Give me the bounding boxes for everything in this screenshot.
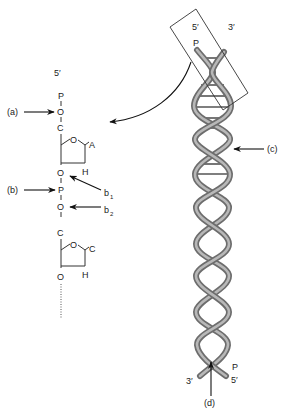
callout-d-label: (d) — [204, 398, 215, 408]
ring-oxygen-1: O — [70, 135, 77, 145]
magnification-box — [170, 9, 248, 110]
atom-o2: O — [57, 168, 64, 178]
arrow-icon — [70, 176, 101, 190]
base-a: A — [89, 140, 95, 150]
atom-p-mid: P — [58, 185, 64, 195]
double-helix — [194, 50, 231, 376]
callout-b2-label: b — [104, 205, 109, 215]
callout-b2: b 2 — [70, 205, 114, 217]
sugar-ring-1: O A H — [61, 134, 95, 177]
atom-o3: O — [57, 202, 64, 212]
callout-b2-subscript: 2 — [110, 211, 114, 217]
callout-c-label: (c) — [267, 144, 278, 154]
callout-b1-subscript: 1 — [110, 194, 114, 200]
callout-a: (a) — [7, 107, 54, 117]
atom-c1: C — [57, 123, 64, 133]
helix-bottom-p: P — [232, 362, 238, 372]
atom-p-top: P — [58, 91, 64, 101]
five-prime-label-left: 5′ — [54, 68, 61, 78]
atom-o4: O — [57, 272, 64, 282]
helix-bottom-three-prime: 3′ — [186, 376, 193, 386]
callout-b-label: (b) — [7, 185, 18, 195]
ring-oxygen-2: O — [70, 240, 77, 250]
callout-b1: b 1 — [70, 176, 114, 200]
nucleotide-chain: 5′ P O C O A H O P O C O — [54, 68, 96, 318]
zoom-curved-arrow-icon — [110, 62, 191, 122]
helix-top-three-prime: 3′ — [228, 22, 235, 32]
dna-diagram: 5′ P O C O A H O P O C O — [0, 0, 285, 408]
atom-c2: C — [57, 228, 64, 238]
helix-top-five-prime: 5′ — [192, 22, 199, 32]
callout-a-label: (a) — [7, 107, 18, 117]
base-c: C — [89, 244, 96, 254]
helix-top-p: P — [193, 38, 199, 48]
sugar-ring-2: O C H — [61, 239, 96, 280]
callout-c: (c) — [234, 144, 278, 154]
callout-b1-label: b — [104, 188, 109, 198]
atom-o1: O — [57, 107, 64, 117]
atom-h1: H — [82, 167, 89, 177]
atom-h2: H — [82, 270, 89, 280]
callout-b: (b) — [7, 185, 55, 195]
helix-bottom-five-prime: 5′ — [231, 375, 238, 385]
